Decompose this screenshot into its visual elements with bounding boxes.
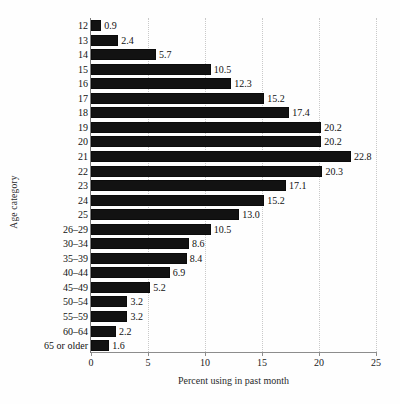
bar-row: 55–593.2 xyxy=(91,309,376,324)
y-axis-title: Age category xyxy=(0,0,28,404)
x-tick-mark-20 xyxy=(319,352,320,356)
category-label: 18 xyxy=(78,105,88,120)
bar-value-label: 17.4 xyxy=(292,105,310,120)
category-label: 12 xyxy=(78,18,88,33)
bar-value-label: 17.1 xyxy=(289,178,307,193)
bar xyxy=(91,180,286,191)
bar xyxy=(91,49,156,60)
bar xyxy=(91,253,187,264)
category-label: 17 xyxy=(78,91,88,106)
bar-row: 145.7 xyxy=(91,47,376,62)
bar-row: 1510.5 xyxy=(91,62,376,77)
bar-row: 65 or older1.6 xyxy=(91,338,376,353)
bar xyxy=(91,340,109,351)
bar-value-label: 2.4 xyxy=(121,33,134,48)
bar-value-label: 3.2 xyxy=(130,294,143,309)
bar xyxy=(91,122,321,133)
bar-value-label: 8.4 xyxy=(190,251,203,266)
category-label: 35–39 xyxy=(63,251,88,266)
category-label: 15 xyxy=(78,62,88,77)
x-tick-label: 15 xyxy=(242,357,282,368)
category-label: 40–44 xyxy=(63,265,88,280)
x-tick-label: 25 xyxy=(356,357,396,368)
bar-value-label: 5.7 xyxy=(159,47,172,62)
bar xyxy=(91,136,321,147)
bar xyxy=(91,311,127,322)
bar xyxy=(91,296,127,307)
x-tick-label: 0 xyxy=(71,357,111,368)
bar-row: 40–446.9 xyxy=(91,265,376,280)
category-label: 26–29 xyxy=(63,222,88,237)
category-label: 13 xyxy=(78,33,88,48)
bar xyxy=(91,209,239,220)
category-label: 23 xyxy=(78,178,88,193)
x-tick-mark-5 xyxy=(148,352,149,356)
bar-row: 50–543.2 xyxy=(91,294,376,309)
bar-value-label: 1.6 xyxy=(112,338,125,353)
bar-row: 1612.3 xyxy=(91,76,376,91)
category-label: 21 xyxy=(78,149,88,164)
bar-value-label: 22.8 xyxy=(354,149,372,164)
bar xyxy=(91,166,322,177)
gridline-25 xyxy=(376,18,377,352)
x-tick-mark-25 xyxy=(376,352,377,356)
bar-value-label: 8.6 xyxy=(192,236,205,251)
bar-row: 2415.2 xyxy=(91,193,376,208)
bar xyxy=(91,35,118,46)
bar xyxy=(91,93,264,104)
category-label: 65 or older xyxy=(44,338,88,353)
category-label: 55–59 xyxy=(63,309,88,324)
bar-row: 2317.1 xyxy=(91,178,376,193)
category-label: 25 xyxy=(78,207,88,222)
bar xyxy=(91,282,150,293)
bar-value-label: 12.3 xyxy=(234,76,252,91)
bar-value-label: 3.2 xyxy=(130,309,143,324)
bar-row: 30–348.6 xyxy=(91,236,376,251)
bar xyxy=(91,267,170,278)
bar-value-label: 5.2 xyxy=(153,280,166,295)
bar xyxy=(91,195,264,206)
bar-value-label: 10.5 xyxy=(214,222,232,237)
category-label: 60–64 xyxy=(63,324,88,339)
bar-value-label: 15.2 xyxy=(267,193,285,208)
x-axis-title: Percent using in past month xyxy=(91,375,376,386)
bar-row: 60–642.2 xyxy=(91,324,376,339)
bar-row: 1715.2 xyxy=(91,91,376,106)
bar-value-label: 20.3 xyxy=(325,164,343,179)
bar-value-label: 20.2 xyxy=(324,134,342,149)
bar-value-label: 15.2 xyxy=(267,91,285,106)
bar-row: 1817.4 xyxy=(91,105,376,120)
bar-row: 132.4 xyxy=(91,33,376,48)
bar-row: 2020.2 xyxy=(91,134,376,149)
x-tick-mark-15 xyxy=(262,352,263,356)
bar-row: 26–2910.5 xyxy=(91,222,376,237)
category-label: 50–54 xyxy=(63,294,88,309)
x-axis-line xyxy=(91,352,376,353)
x-tick-mark-0 xyxy=(91,352,92,356)
bar xyxy=(91,20,101,31)
bar-row: 1920.2 xyxy=(91,120,376,135)
bar xyxy=(91,326,116,337)
plot-area: 120.9132.4145.71510.51612.31715.21817.41… xyxy=(91,18,376,352)
bar-value-label: 20.2 xyxy=(324,120,342,135)
bar-value-label: 2.2 xyxy=(119,324,132,339)
bar-row: 2122.8 xyxy=(91,149,376,164)
category-label: 30–34 xyxy=(63,236,88,251)
bar xyxy=(91,107,289,118)
category-label: 16 xyxy=(78,76,88,91)
x-tick-mark-10 xyxy=(205,352,206,356)
x-tick-label: 5 xyxy=(128,357,168,368)
category-label: 45–49 xyxy=(63,280,88,295)
bar-value-label: 0.9 xyxy=(104,18,117,33)
bar xyxy=(91,151,351,162)
category-label: 20 xyxy=(78,134,88,149)
bar-value-label: 10.5 xyxy=(214,62,232,77)
bar-chart-figure: Age category 120.9132.4145.71510.51612.3… xyxy=(0,0,400,404)
bar xyxy=(91,224,211,235)
category-label: 14 xyxy=(78,47,88,62)
bar-row: 120.9 xyxy=(91,18,376,33)
bar-row: 45–495.2 xyxy=(91,280,376,295)
bar-value-label: 6.9 xyxy=(173,265,186,280)
bar-row: 2513.0 xyxy=(91,207,376,222)
category-label: 19 xyxy=(78,120,88,135)
